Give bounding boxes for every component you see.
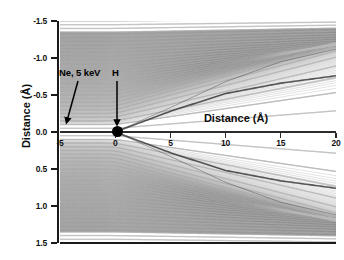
y-axis-tick-label: -1.0 (33, 53, 47, 63)
x-axis-tick (170, 133, 171, 138)
target-annotation-label: H (112, 67, 119, 78)
y-axis-tick-label: 0.0 (36, 127, 47, 137)
x-axis-bottom-line (60, 242, 336, 244)
y-axis-tick-label: -1.5 (33, 16, 47, 26)
inner-x-axis-line (60, 131, 336, 132)
y-axis-tick-label: 0.5 (36, 164, 47, 174)
x-axis-tick (225, 133, 226, 138)
trajectory-figure: 1.51.00.50.0-0.5-1.0-1.5 -505101520 Dist… (0, 0, 344, 260)
x-axis-tick (280, 133, 281, 138)
y-axis-tick (51, 242, 57, 244)
y-axis-tick (51, 20, 57, 22)
y-axis-tick-label: 1.0 (36, 201, 47, 211)
y-axis-tick (51, 57, 57, 59)
x-axis-tick-label: 15 (276, 138, 285, 148)
y-axis-tick (51, 205, 57, 207)
x-axis-tick-label: 20 (331, 138, 340, 148)
x-axis-tick-label: 10 (221, 138, 230, 148)
x-axis-tick-label: 5 (168, 138, 173, 148)
trajectory-line (60, 22, 336, 25)
y-axis-tick (51, 168, 57, 170)
x-axis-tick-label: 0 (113, 138, 118, 148)
y-axis-line (57, 21, 59, 243)
y-axis-title: Distance (Å) (20, 46, 32, 186)
projectile-annotation-label: Ne, 5 keV (59, 67, 100, 78)
y-axis-tick-label: 1.5 (36, 238, 47, 248)
trajectory-line (60, 236, 336, 239)
target-particle-h (115, 129, 120, 134)
y-axis-tick (51, 131, 57, 133)
trajectory-line (60, 25, 336, 28)
x-axis-tick (335, 133, 336, 138)
y-axis-tick (51, 94, 57, 96)
y-axis-tick-label: -0.5 (33, 90, 47, 100)
inner-x-axis-title: Distance (Å) (204, 112, 268, 124)
x-axis-tick-label: -5 (56, 138, 63, 148)
